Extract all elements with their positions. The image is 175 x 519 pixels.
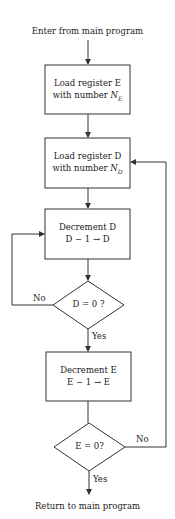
decrement-d-text: Decrement D D − 1 → D	[45, 221, 130, 245]
d-zero-no-label: No	[33, 293, 46, 304]
load-d-line2: with number ND	[45, 162, 130, 178]
load-e-line1: Load register E	[45, 77, 130, 89]
sub-d: D	[118, 168, 123, 175]
load-register-e-text: Load register E with number NE	[45, 77, 130, 105]
dec-d-line2: D − 1 → D	[45, 233, 130, 245]
var-n: N	[110, 163, 117, 173]
load-e-prefix: with number	[53, 90, 111, 100]
dec-d-line1: Decrement D	[45, 221, 130, 233]
start-label: Enter from main program	[0, 26, 175, 37]
var-n: N	[111, 90, 118, 100]
decrement-e-text: Decrement E E − 1 → E	[46, 364, 131, 388]
e-zero-no-label: No	[136, 434, 149, 445]
d-zero-label: D = 0 ?	[53, 299, 124, 310]
dec-e-line2: E − 1 → E	[46, 376, 131, 388]
end-label: Return to main program	[0, 501, 175, 512]
e-zero-label: E = 0?	[54, 441, 125, 452]
e-zero-yes-label: Yes	[93, 474, 107, 485]
d-zero-yes-label: Yes	[92, 331, 106, 342]
load-d-prefix: with number	[52, 163, 110, 173]
load-register-d-text: Load register D with number ND	[45, 150, 130, 178]
load-d-line1: Load register D	[45, 150, 130, 162]
sub-e: E	[118, 95, 122, 102]
dec-e-line1: Decrement E	[46, 364, 131, 376]
load-e-line2: with number NE	[45, 89, 130, 105]
